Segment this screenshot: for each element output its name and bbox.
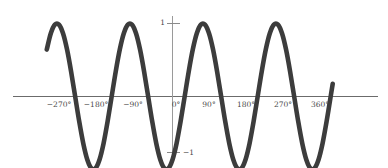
x-tick-label-270: 270°	[274, 101, 292, 109]
chart-canvas: −270° −180° −90° 0° 90° 180° 270° 360° 1…	[0, 0, 388, 168]
x-tick-label-minus-180: −180°	[84, 101, 108, 109]
y-tick-label-positive-one: 1	[160, 19, 165, 27]
x-tick-label-minus-90: −90°	[123, 101, 143, 109]
x-tick-label-180: 180°	[237, 101, 255, 109]
sine-curve	[47, 24, 333, 168]
y-tick-label-negative-one: −1	[183, 149, 194, 157]
x-tick-label-minus-270: −270°	[47, 101, 71, 109]
x-tick-label-zero: 0°	[172, 101, 181, 109]
x-tick-label-90: 90°	[202, 101, 215, 109]
x-tick-label-360: 360°	[311, 101, 329, 109]
plot-svg	[0, 0, 388, 168]
